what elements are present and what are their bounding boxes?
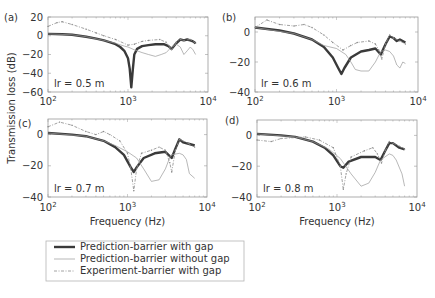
y-tick-label: 20 — [30, 12, 43, 23]
legend-label: Experiment-barrier with gap — [80, 265, 221, 276]
y-tick-label: −20 — [22, 49, 43, 60]
y-tick-label: −20 — [22, 160, 43, 171]
panel-label: (a) — [4, 12, 18, 23]
y-axis-title: Transmission loss (dB) — [6, 52, 17, 164]
x-tick-label: 104 — [409, 95, 427, 107]
panel-label: (d) — [225, 115, 239, 126]
legend-item: Experiment-barrier with gap — [54, 265, 221, 276]
y-tick-label: −40 — [22, 192, 43, 203]
panel-label: (b) — [222, 12, 236, 23]
panel-annotation: lr = 0.8 m — [263, 183, 313, 194]
x-axis-title: Frequency (Hz) — [299, 216, 375, 227]
x-axis-title: Frequency (Hz) — [90, 216, 166, 227]
x-tick-label: 104 — [198, 201, 216, 213]
legend: Prediction-barrier with gapPrediction-ba… — [46, 241, 244, 281]
y-tick-label: −40 — [231, 192, 252, 203]
y-tick-label: −20 — [229, 57, 250, 68]
panel-d: 0−20−40102103104(d)lr = 0.8 mFrequency (… — [225, 115, 426, 227]
y-tick-label: 0 — [37, 30, 43, 41]
legend-label: Prediction-barrier without gap — [80, 253, 230, 264]
legend-label: Prediction-barrier with gap — [80, 241, 213, 252]
x-tick-label: 102 — [39, 201, 56, 213]
panel-annotation: lr = 0.6 m — [261, 78, 311, 89]
x-tick-label: 102 — [39, 95, 56, 107]
x-tick-label: 103 — [119, 95, 136, 107]
panel-c: 0−20−40102103104(c)lr = 0.7 mFrequency (… — [18, 118, 216, 227]
y-tick-label: 0 — [37, 129, 43, 140]
x-tick-label: 103 — [328, 201, 345, 213]
x-tick-label: 102 — [246, 95, 263, 107]
x-tick-label: 104 — [408, 201, 426, 213]
x-tick-label: 103 — [119, 201, 136, 213]
y-tick-label: −20 — [231, 161, 252, 172]
panel-label: (c) — [18, 118, 31, 129]
x-tick-label: 103 — [328, 95, 345, 107]
panels: 200−20−40−60102103104(a)lr = 0.5 m0−20−4… — [4, 12, 427, 228]
legend-item: Prediction-barrier without gap — [54, 253, 230, 264]
y-tick-label: 0 — [246, 130, 252, 141]
panel-a: 200−20−40−60102103104(a)lr = 0.5 m — [4, 12, 217, 108]
panel-annotation: lr = 0.7 m — [54, 183, 104, 194]
panel-b: 0−20−40102103104(b)lr = 0.6 m — [222, 12, 427, 107]
x-tick-label: 102 — [248, 201, 265, 213]
figure: Transmission loss (dB) 200−20−40−6010210… — [0, 0, 435, 298]
y-tick-label: 0 — [244, 27, 250, 38]
x-tick-label: 104 — [199, 95, 217, 107]
y-tick-label: −40 — [22, 68, 43, 79]
panel-annotation: lr = 0.5 m — [54, 78, 104, 89]
chart-canvas: Transmission loss (dB) 200−20−40−6010210… — [0, 0, 435, 298]
